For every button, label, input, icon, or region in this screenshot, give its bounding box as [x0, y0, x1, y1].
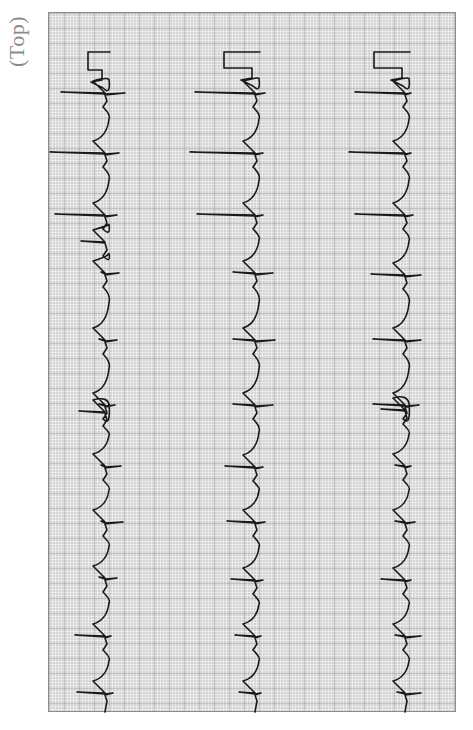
ecg-trace-middle	[190, 52, 275, 712]
ecg-traces	[0, 0, 473, 730]
ecg-waveform	[190, 52, 275, 712]
ecg-waveform	[50, 52, 125, 712]
ecg-waveform	[349, 52, 421, 712]
ecg-trace-right	[349, 52, 421, 712]
ecg-trace-left	[50, 52, 125, 712]
